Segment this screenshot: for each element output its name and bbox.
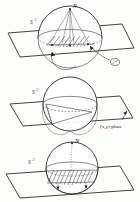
panel-bottom-sphere-pinched: N S 2 — [0, 138, 140, 202]
panel-middle-sphere-through-plane: S 2 (x,y)-plane — [0, 68, 140, 138]
loop-marker-icon — [110, 59, 119, 66]
marker-dot-center-top — [69, 45, 71, 47]
label-sphere-bottom: S — [28, 159, 31, 165]
label-xy-plane: (x,y)-plane — [100, 124, 123, 130]
marker-dot-left-top — [51, 44, 53, 46]
label-sphere-exponent-bottom: 2 — [33, 158, 35, 162]
marker-dot-right-top — [87, 43, 89, 45]
label-sphere-exponent-middle: 2 — [37, 88, 39, 92]
label-sphere-exponent-top: 2 — [35, 18, 37, 22]
sphere-middle — [43, 77, 97, 131]
label-north-pole-bottom: N — [74, 138, 80, 144]
north-pole-point-bottom — [71, 142, 73, 144]
label-sphere-top: S — [30, 19, 33, 25]
panel-top-sphere-over-plane: N S 2 — [0, 0, 140, 70]
figure-root: N S 2 — [0, 0, 140, 202]
label-north-pole-top: N — [72, 2, 78, 9]
north-pole-point-top — [69, 8, 71, 10]
transition-arrow-left — [51, 52, 76, 70]
sphere-bottom — [46, 142, 98, 194]
label-sphere-middle: S — [32, 89, 35, 95]
